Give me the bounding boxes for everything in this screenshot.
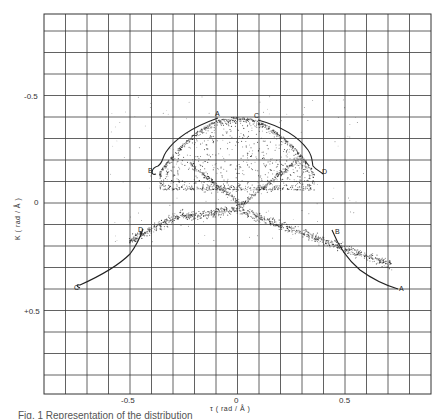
y-tick-neg-0-5: -0.5 <box>24 92 38 101</box>
x-tick-0: 0 <box>234 396 238 405</box>
label-lower-b: B <box>335 228 340 235</box>
label-lower-a: A <box>399 285 404 292</box>
chart-plot: A B C D D C B A <box>0 0 444 419</box>
label-lower-c: C <box>74 284 79 291</box>
label-upper-b: B <box>148 167 153 174</box>
x-tick-neg-0-5: -0.5 <box>121 396 135 405</box>
x-axis-label: τ ( rad / Å ) <box>210 405 250 412</box>
label-upper-a: A <box>215 110 220 117</box>
label-lower-d: D <box>138 226 143 233</box>
figure-caption: Fig. 1 Representation of the distributio… <box>18 410 193 419</box>
label-upper-d: D <box>322 168 327 175</box>
x-tick-0-5: 0.5 <box>339 396 350 405</box>
scatter-points <box>110 96 392 270</box>
y-tick-0: 0 <box>34 198 38 207</box>
grid-lines <box>44 14 431 394</box>
label-upper-c: C <box>254 112 259 119</box>
y-axis-label: K ( rad / Å ) <box>14 198 21 240</box>
y-tick-pos-0-5: +0.5 <box>24 307 40 316</box>
